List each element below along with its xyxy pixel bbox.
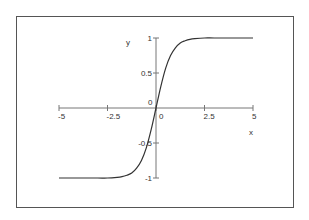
y-tick-label: 0 — [148, 98, 153, 107]
x-tick-label: -5 — [58, 112, 66, 121]
x-axis-label: x — [249, 128, 253, 137]
y-tick-label: 1 — [148, 34, 153, 43]
y-axis-label: y — [126, 38, 130, 47]
y-tick-label: 0.5 — [141, 69, 153, 78]
x-tick-label: -2.5 — [107, 112, 121, 121]
y-tick-label: -0.5 — [138, 139, 152, 148]
x-tick-label: 0 — [159, 112, 164, 121]
chart-plot: -5-2.502.5510.50-0.5-1 x y — [0, 0, 309, 220]
y-tick-label: -1 — [145, 174, 153, 183]
x-tick-label: 2.5 — [204, 112, 216, 121]
x-tick-label: 5 — [252, 112, 257, 121]
